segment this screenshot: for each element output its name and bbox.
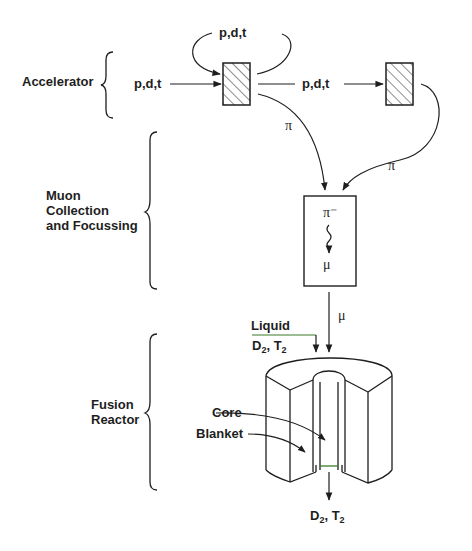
- stage-label-fusion-2: Reactor: [91, 412, 139, 427]
- pion-label-2: π: [388, 158, 395, 174]
- core-label: Core: [212, 405, 242, 420]
- outlet-fuel-label: D2, T2: [310, 508, 345, 528]
- accelerator-brace: [101, 52, 113, 118]
- target-2: [386, 63, 413, 105]
- target-1: [223, 63, 250, 105]
- pion-label-1: π: [285, 118, 292, 134]
- stage-label-muon-2: Collection: [46, 203, 109, 218]
- muon-brace: [145, 132, 157, 289]
- inlet-fuel-label: D2, T2: [252, 338, 287, 358]
- forward-beam-label: p,d,t: [302, 76, 329, 91]
- stage-label-accelerator: Accelerator: [22, 74, 94, 89]
- recirculated-beam-label: p,d,t: [219, 25, 246, 40]
- pion-minus-label: π⁻: [323, 204, 337, 221]
- input-beam-label: p,d,t: [134, 76, 161, 91]
- muon-box-label: μ: [323, 257, 331, 273]
- fusion-brace: [145, 334, 157, 490]
- muon-beam-label: μ: [338, 308, 346, 324]
- blanket-label: Blanket: [196, 426, 243, 441]
- stage-label-muon-3: and Focussing: [46, 218, 138, 233]
- stage-label-fusion-1: Fusion: [91, 397, 134, 412]
- stage-label-muon-1: Muon: [46, 188, 81, 203]
- liquid-label: Liquid: [251, 318, 290, 333]
